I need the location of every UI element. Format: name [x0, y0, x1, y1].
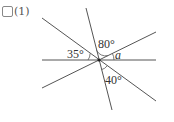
- angle-label-a: a: [115, 48, 121, 62]
- angle-label-40: 40°: [105, 73, 122, 87]
- angle-arc-left: [88, 54, 90, 61]
- angle-arc-right: [112, 53, 114, 60]
- angle-arc-bottom: [101, 66, 107, 70]
- angle-label-35: 35°: [67, 47, 84, 61]
- angle-diagram: 35° 80° a 40°: [0, 0, 174, 122]
- angle-label-80: 80°: [98, 37, 115, 51]
- intersection-point: [97, 58, 100, 61]
